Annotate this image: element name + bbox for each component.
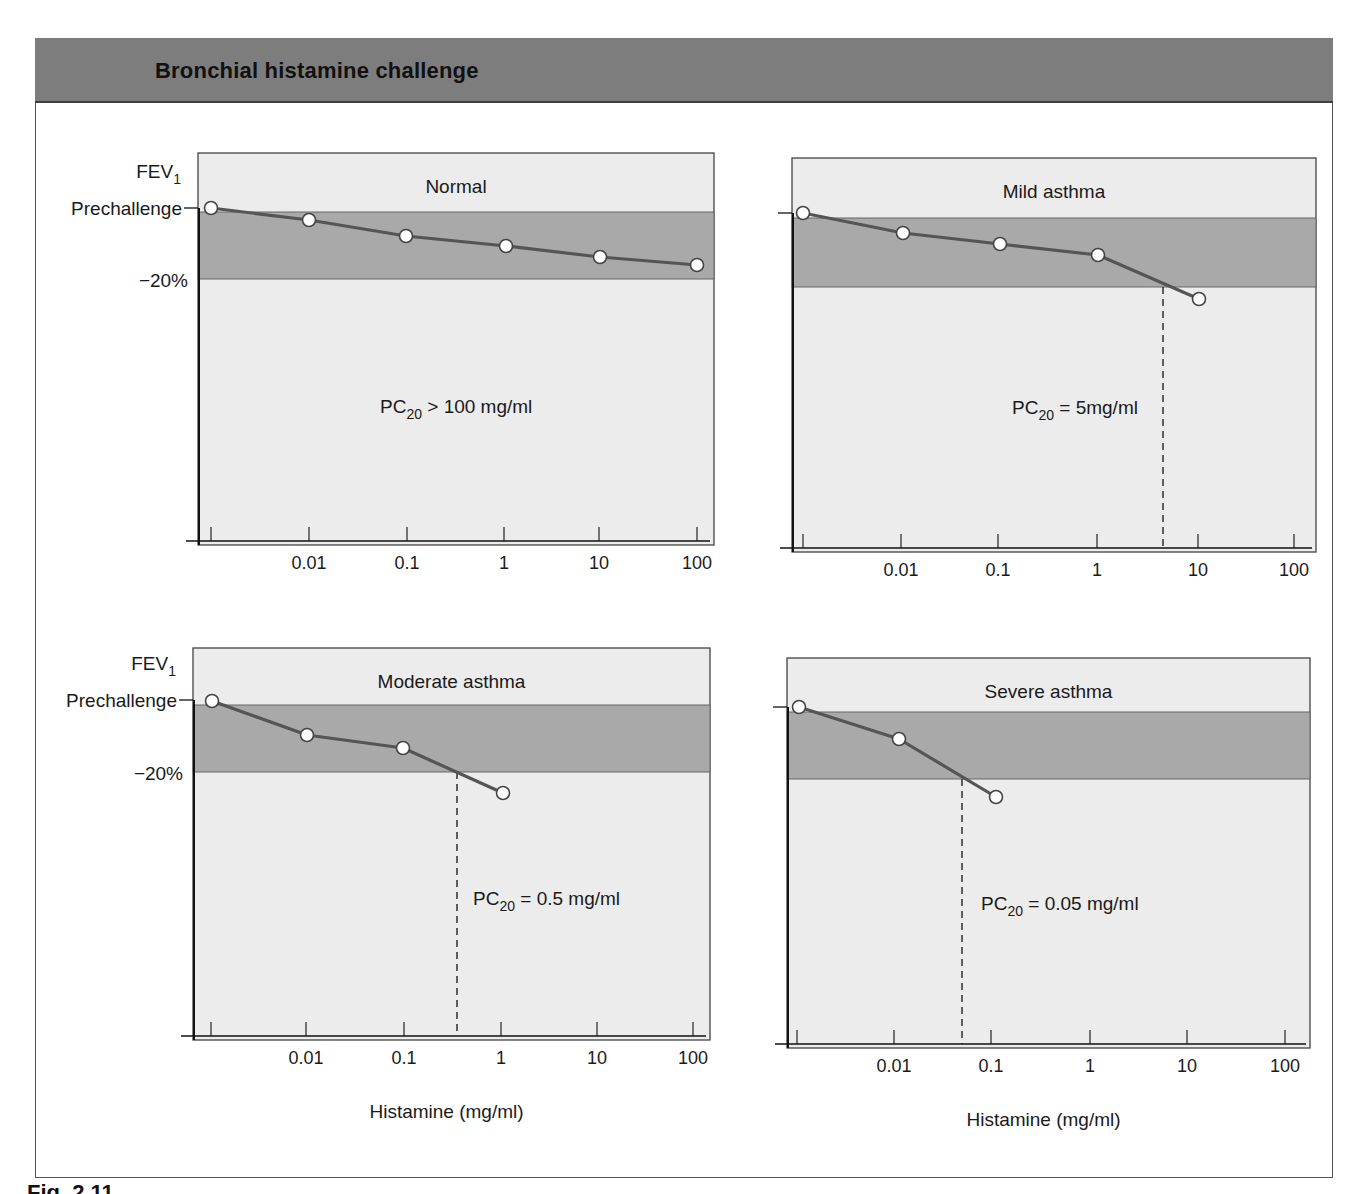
x-tick-label: 1 xyxy=(499,553,509,573)
threshold-label: −20% xyxy=(139,270,188,291)
x-tick-label: 10 xyxy=(589,553,609,573)
data-point-marker xyxy=(397,742,410,755)
threshold-band xyxy=(792,218,1316,287)
x-tick-label: 0.01 xyxy=(883,560,918,580)
x-tick-label: 1 xyxy=(496,1048,506,1068)
y-axis-title: FEV1 xyxy=(131,653,176,679)
data-point-marker xyxy=(594,251,607,264)
plot-area xyxy=(792,158,1316,552)
x-tick-label: 0.01 xyxy=(876,1056,911,1076)
x-tick-label: 100 xyxy=(1279,560,1309,580)
y-axis-title: FEV1 xyxy=(136,161,181,187)
panel-title: Mild asthma xyxy=(1003,181,1106,202)
threshold-band xyxy=(198,212,714,279)
x-tick-label: 100 xyxy=(1270,1056,1300,1076)
chart-panel-normal: 0.010.1110100NormalPC20 > 100 mg/mlFEV1P… xyxy=(71,153,714,573)
chart-panel-mild-asthma: 0.010.1110100Mild asthmaPC20 = 5mg/ml xyxy=(778,158,1316,580)
data-point-marker xyxy=(893,733,906,746)
x-tick-label: 100 xyxy=(682,553,712,573)
threshold-band xyxy=(193,705,710,772)
data-point-marker xyxy=(1193,293,1206,306)
x-tick-label: 10 xyxy=(1177,1056,1197,1076)
x-tick-label: 0.1 xyxy=(394,553,419,573)
threshold-label: −20% xyxy=(134,763,183,784)
prechallenge-label: Prechallenge xyxy=(66,690,177,711)
threshold-band xyxy=(787,712,1310,779)
panel-title: Moderate asthma xyxy=(378,671,526,692)
chart-panel-severe-asthma: 0.010.1110100Severe asthmaPC20 = 0.05 mg… xyxy=(773,658,1310,1130)
x-axis-title: Histamine (mg/ml) xyxy=(966,1109,1120,1130)
x-tick-label: 1 xyxy=(1092,560,1102,580)
data-point-marker xyxy=(691,259,704,272)
data-point-marker xyxy=(400,230,413,243)
panel-title: Normal xyxy=(425,176,486,197)
x-tick-label: 10 xyxy=(1188,560,1208,580)
data-point-marker xyxy=(206,695,219,708)
data-point-marker xyxy=(793,701,806,714)
data-point-marker xyxy=(990,791,1003,804)
data-point-marker xyxy=(797,207,810,220)
x-tick-label: 10 xyxy=(587,1048,607,1068)
prechallenge-label: Prechallenge xyxy=(71,198,182,219)
panel-title: Severe asthma xyxy=(985,681,1113,702)
x-tick-label: 100 xyxy=(678,1048,708,1068)
data-point-marker xyxy=(497,787,510,800)
x-tick-label: 0.1 xyxy=(985,560,1010,580)
x-tick-label: 0.01 xyxy=(288,1048,323,1068)
x-tick-label: 1 xyxy=(1085,1056,1095,1076)
data-point-marker xyxy=(500,240,513,253)
x-tick-label: 0.1 xyxy=(978,1056,1003,1076)
chart-panel-moderate-asthma: 0.010.1110100Moderate asthmaPC20 = 0.5 m… xyxy=(66,648,710,1122)
data-point-marker xyxy=(303,214,316,227)
data-point-marker xyxy=(301,729,314,742)
data-point-marker xyxy=(205,202,218,215)
x-axis-title: Histamine (mg/ml) xyxy=(369,1101,523,1122)
figure-caption-fragment: Fig. 2.11 xyxy=(27,1182,114,1194)
x-tick-label: 0.01 xyxy=(291,553,326,573)
charts-canvas: 0.010.1110100NormalPC20 > 100 mg/mlFEV1P… xyxy=(0,0,1357,1194)
x-tick-label: 0.1 xyxy=(391,1048,416,1068)
data-point-marker xyxy=(994,238,1007,251)
data-point-marker xyxy=(1092,249,1105,262)
data-point-marker xyxy=(897,227,910,240)
